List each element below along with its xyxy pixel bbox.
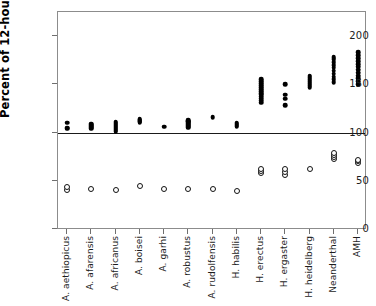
x-tick-mark	[309, 229, 310, 234]
data-point	[113, 187, 119, 193]
data-point	[283, 103, 288, 108]
x-tick-label-h-heidelberg: H. heidelberg	[304, 236, 314, 298]
x-tick-label-h-erectus: H. erectus	[255, 236, 265, 283]
data-point	[355, 157, 361, 163]
data-point	[161, 186, 167, 192]
data-point	[356, 50, 361, 55]
data-point	[137, 183, 143, 189]
y-tick-mark	[52, 228, 57, 229]
x-tick-mark	[139, 229, 140, 234]
x-tick-label-a-africanus: A. africanus	[110, 236, 120, 290]
y-tick-label: 200	[349, 30, 369, 41]
x-tick-label-a-aethiopicus: A. aethiopicus	[61, 236, 71, 301]
data-point	[282, 166, 288, 172]
x-tick-mark	[212, 229, 213, 234]
data-point	[186, 118, 191, 123]
x-tick-label-amh: AMH	[352, 236, 362, 257]
x-tick-mark	[115, 229, 116, 234]
data-point	[210, 186, 216, 192]
y-tick-mark	[52, 35, 57, 36]
y-axis-label: Percent of 12-hour day	[0, 0, 12, 118]
data-point	[185, 186, 191, 192]
x-tick-label-a-robustus: A. robustus	[182, 236, 192, 288]
x-tick-label-a-boisei: A. boisei	[134, 236, 144, 275]
y-tick-mark	[52, 132, 57, 133]
data-point	[259, 77, 264, 82]
data-point	[307, 166, 313, 172]
data-point	[307, 73, 312, 78]
data-point	[210, 115, 215, 120]
data-point	[65, 125, 70, 130]
data-point	[283, 93, 288, 98]
data-point	[65, 121, 70, 126]
x-tick-label-a-garhi: A. garhi	[158, 236, 168, 272]
data-point	[113, 120, 118, 125]
plot-area	[58, 12, 365, 228]
y-tick-mark	[52, 83, 57, 84]
chart-figure: Percent of 12-hour day 050100150200A. ae…	[0, 0, 376, 306]
x-tick-mark	[187, 229, 188, 234]
x-tick-mark	[163, 229, 164, 234]
data-point	[331, 150, 337, 156]
data-point	[64, 184, 70, 190]
y-tick-label: 0	[362, 223, 369, 234]
y-tick-mark	[52, 180, 57, 181]
x-tick-label-h-habilis: H. habilis	[231, 236, 241, 278]
data-point	[137, 117, 142, 122]
y-tick-label: 150	[349, 78, 369, 89]
x-tick-mark	[333, 229, 334, 234]
data-point	[162, 124, 167, 129]
x-tick-mark	[284, 229, 285, 234]
x-tick-label-neanderthal: Neanderthal	[328, 236, 338, 293]
x-tick-label-a-afarensis: A. afarensis	[85, 236, 95, 290]
x-tick-mark	[90, 229, 91, 234]
x-tick-mark	[260, 229, 261, 234]
data-point	[258, 166, 264, 172]
y-tick-label: 50	[356, 174, 369, 185]
data-point	[331, 55, 336, 60]
x-tick-mark	[357, 229, 358, 234]
x-tick-mark	[66, 229, 67, 234]
data-point	[283, 82, 288, 87]
data-point	[234, 188, 240, 194]
x-tick-mark	[236, 229, 237, 234]
plot-frame	[57, 11, 366, 229]
reference-line-100	[58, 133, 365, 134]
x-tick-label-a-rudolfensis: A. rudolfensis	[207, 236, 217, 299]
x-tick-label-h-ergaster: H. ergaster	[279, 236, 289, 287]
data-point	[88, 186, 94, 192]
y-tick-label: 100	[349, 126, 369, 137]
data-point	[234, 121, 239, 126]
data-point	[89, 122, 94, 127]
